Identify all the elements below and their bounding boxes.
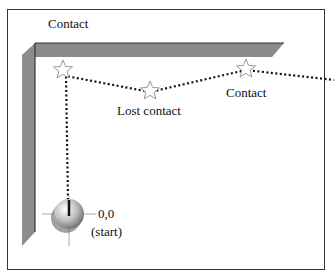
contact-star-icon xyxy=(54,60,73,78)
robot-path xyxy=(66,70,334,200)
wall-left xyxy=(22,43,35,246)
wall-top xyxy=(35,43,284,57)
label-lost-contact: Lost contact xyxy=(117,103,181,119)
label-start: (start) xyxy=(91,224,122,240)
label-contact-right: Contact xyxy=(226,85,266,101)
label-contact-top: Contact xyxy=(48,16,88,32)
contact-right-star-icon xyxy=(237,59,256,77)
diagram-canvas xyxy=(0,0,334,280)
lost-contact-star-icon xyxy=(141,81,160,99)
label-origin: 0,0 xyxy=(98,206,114,222)
